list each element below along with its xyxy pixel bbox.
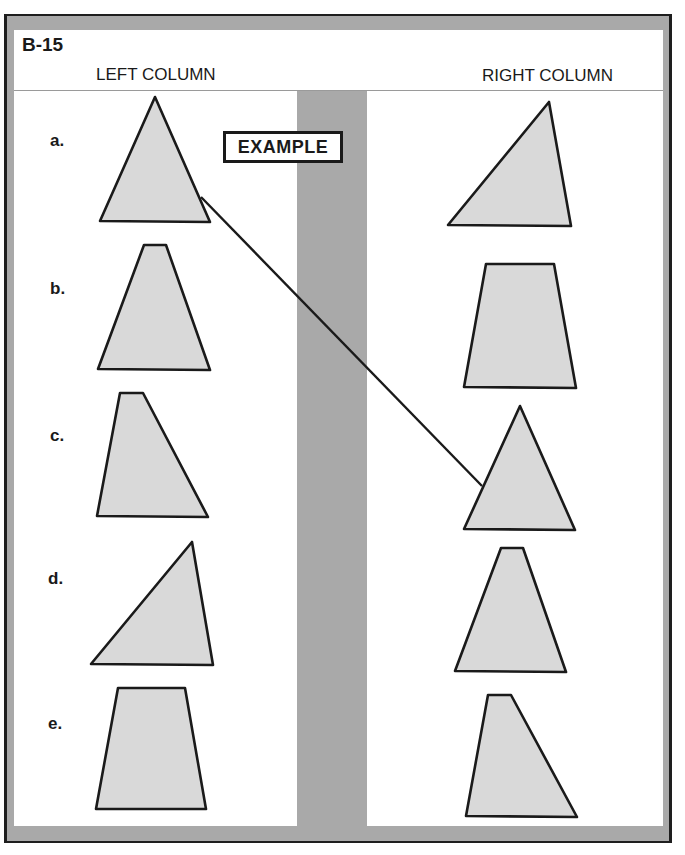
example-badge: EXAMPLE bbox=[223, 131, 343, 163]
item-label-d: d. bbox=[48, 569, 63, 589]
worksheet-header: B-15 LEFT COLUMN RIGHT COLUMN bbox=[14, 30, 663, 91]
worksheet-code: B-15 bbox=[22, 34, 63, 56]
left-column-title: LEFT COLUMN bbox=[96, 65, 216, 85]
item-label-e: e. bbox=[48, 714, 62, 734]
item-label-b: b. bbox=[50, 279, 65, 299]
item-label-a: a. bbox=[50, 131, 64, 151]
item-label-c: c. bbox=[50, 426, 64, 446]
right-column-title: RIGHT COLUMN bbox=[482, 66, 613, 86]
